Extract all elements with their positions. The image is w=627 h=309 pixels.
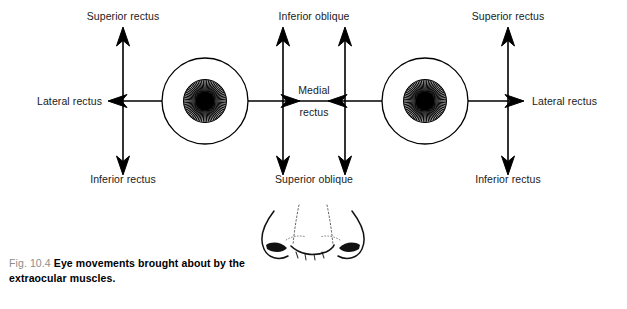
label-medial-rectus-line1: Medial (298, 84, 330, 96)
figure-caption: Fig. 10.4 Eye movements brought about by… (9, 256, 269, 285)
nose-illustration (262, 205, 364, 260)
left-pupil (196, 92, 214, 110)
label-left-inferior-rectus: Inferior rectus (90, 173, 156, 185)
figure-number: Fig. 10.4 (9, 257, 51, 269)
right-pupil (416, 92, 434, 110)
label-left-lateral-rectus: Lateral rectus (37, 95, 102, 107)
left-eye-illustration (162, 58, 248, 144)
figure-container: Superior rectus Lateral rectus Inferior … (0, 0, 627, 309)
label-right-lateral-rectus: Lateral rectus (532, 95, 597, 107)
label-superior-oblique: Superior oblique (275, 173, 353, 185)
label-left-superior-rectus: Superior rectus (87, 10, 160, 22)
right-eye-illustration (382, 58, 468, 144)
label-right-inferior-rectus: Inferior rectus (475, 173, 541, 185)
label-inferior-oblique: Inferior oblique (278, 10, 349, 22)
label-medial-rectus-line2: rectus (299, 106, 328, 118)
label-right-superior-rectus: Superior rectus (472, 10, 545, 22)
